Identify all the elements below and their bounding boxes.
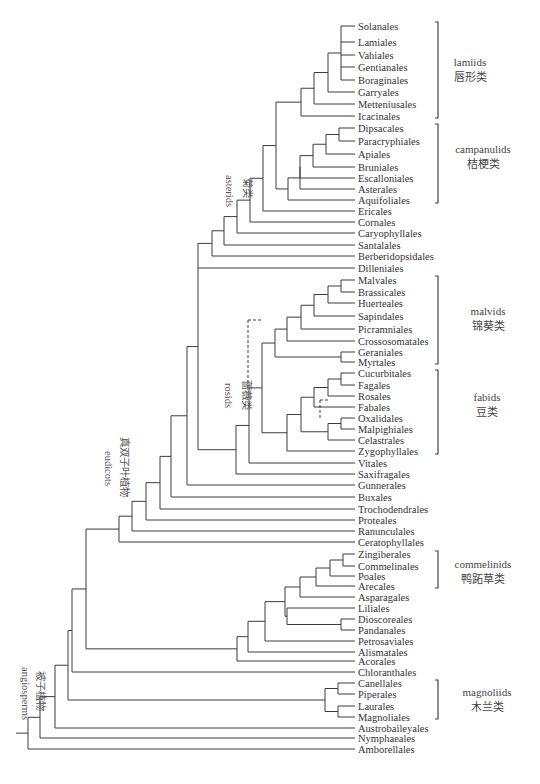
leaf-label: Piperales	[358, 689, 397, 700]
leaf-label: Gentianales	[358, 62, 408, 73]
leaf-label: Arecales	[358, 581, 395, 592]
svg-text:magnoliids: magnoliids	[463, 686, 512, 698]
leaf-label: Canellales	[358, 678, 402, 689]
svg-text:asterids: asterids	[224, 175, 235, 207]
tree-branches	[16, 26, 355, 749]
clade-bracket	[435, 276, 438, 364]
node-label-angiosperms: 被子植物 angiosperms	[20, 667, 47, 720]
clade-brackets	[435, 22, 438, 719]
clade-bracket	[435, 124, 438, 203]
leaf-label: Santalales	[358, 240, 401, 251]
leaf-label: Malvales	[358, 275, 397, 286]
leaf-label: Chloranthales	[358, 667, 416, 678]
svg-text:锦葵类: 锦葵类	[472, 319, 505, 333]
svg-text:lamiids: lamiids	[454, 56, 486, 68]
svg-text:木兰类: 木兰类	[471, 700, 504, 714]
svg-text:fabids: fabids	[474, 391, 501, 403]
leaf-labels: SolanalesLamialesVahialesGentianalesBora…	[358, 21, 434, 755]
clade-bracket	[435, 22, 438, 118]
svg-text:鸭跖草类: 鸭跖草类	[461, 572, 505, 586]
leaf-label: Rosales	[358, 391, 391, 402]
svg-text:campanulids: campanulids	[455, 143, 511, 155]
clade-label-campanulids: campanulids 桔梗类	[455, 143, 511, 171]
leaf-label: Cucurbitales	[358, 368, 411, 379]
leaf-label: Proteales	[358, 515, 397, 526]
leaf-label: Saxifragales	[358, 469, 410, 480]
leaf-label: Aquifoliales	[358, 195, 410, 206]
svg-text:eudicots: eudicots	[103, 451, 114, 486]
leaf-label: Laurales	[358, 701, 394, 712]
leaf-label: Oxalidales	[358, 413, 403, 424]
node-label-eudicots: 真双子叶植物 eudicots	[103, 437, 131, 497]
leaf-label: Myrtales	[358, 357, 395, 368]
leaf-label: Icacinales	[358, 111, 400, 122]
leaf-label: Fabales	[358, 402, 390, 413]
leaf-label: Vahiales	[358, 50, 394, 61]
figure-caption-clipped	[150, 772, 410, 784]
svg-text:rosids: rosids	[223, 383, 234, 408]
leaf-label: Metteniusales	[358, 99, 416, 110]
leaf-label: Acorales	[358, 656, 395, 667]
leaf-label: Caryophyllales	[358, 228, 422, 239]
leaf-label: Liliales	[358, 603, 390, 614]
leaf-label: Zygophyllales	[358, 446, 418, 457]
svg-text:蔷薇类: 蔷薇类	[241, 380, 253, 411]
svg-text:豆类: 豆类	[476, 405, 498, 419]
clade-bracket	[435, 680, 438, 719]
leaf-label: Ranunculales	[358, 526, 415, 537]
clade-bracket	[435, 370, 438, 454]
svg-text:angiosperms: angiosperms	[20, 667, 31, 720]
svg-text:malvids: malvids	[471, 305, 506, 317]
svg-text:桔梗类: 桔梗类	[467, 157, 500, 171]
clade-label-magnoliids: magnoliids 木兰类	[463, 686, 512, 714]
leaf-label: Sapindales	[358, 311, 404, 322]
svg-text:唇形类: 唇形类	[454, 70, 487, 84]
leaf-label: Buxales	[358, 492, 392, 503]
leaf-label: Dipsacales	[358, 123, 403, 134]
node-label-rosids: 蔷薇类 rosids	[223, 380, 253, 411]
clade-bracket	[435, 551, 438, 588]
svg-text:真双子叶植物: 真双子叶植物	[119, 437, 131, 497]
leaf-label: Gunnerales	[358, 480, 406, 491]
leaf-label: Paracryphiales	[358, 136, 420, 147]
clade-label-commelinids: commelinids 鸭跖草类	[455, 558, 512, 586]
leaf-label: Apiales	[358, 149, 390, 160]
clade-label-malvids: malvids 锦葵类	[471, 305, 506, 333]
leaf-label: Dioscoreales	[358, 614, 412, 625]
leaf-label: Amborellales	[358, 744, 415, 755]
leaf-label: Berberidopsidales	[358, 251, 434, 262]
leaf-label: Zingiberales	[358, 549, 410, 560]
svg-text:被子植物: 被子植物	[35, 671, 47, 711]
clade-label-fabids: fabids 豆类	[474, 391, 501, 419]
leaf-label: Boraginales	[358, 75, 408, 86]
leaf-label: Garryales	[358, 87, 399, 98]
leaf-label: Nymphaeales	[358, 733, 415, 744]
leaf-label: Dilleniales	[358, 263, 404, 274]
leaf-label: Vitales	[358, 458, 387, 469]
leaf-label: Bruniales	[358, 162, 398, 173]
leaf-label: Trochodendrales	[358, 504, 428, 515]
leaf-label: Lamiales	[358, 37, 396, 48]
leaf-label: Ceratophyllales	[358, 537, 424, 548]
leaf-label: Solanales	[358, 21, 398, 32]
leaf-label: Fagales	[358, 380, 390, 391]
clade-label-lamiids: lamiids 唇形类	[454, 56, 487, 84]
leaf-label: Asterales	[358, 184, 397, 195]
leaf-label: Celastrales	[358, 435, 404, 446]
leaf-label: Huerteales	[358, 298, 403, 309]
svg-text:菊类: 菊类	[242, 178, 254, 199]
leaf-label: Cornales	[358, 217, 395, 228]
leaf-label: Malpighiales	[358, 424, 413, 435]
leaf-label: Crossosomatales	[358, 336, 429, 347]
leaf-label: Ericales	[358, 206, 392, 217]
phylogenetic-tree: SolanalesLamialesVahialesGentianalesBora…	[0, 0, 540, 784]
leaf-label: Magnoliales	[358, 712, 410, 723]
leaf-label: Asparagales	[358, 592, 409, 603]
leaf-label: Escalloniales	[358, 173, 413, 184]
leaf-label: Brassicales	[358, 287, 405, 298]
svg-text:commelinids: commelinids	[455, 558, 512, 570]
leaf-label: Petrosaviales	[358, 636, 413, 647]
leaf-label: Picramniales	[358, 324, 412, 335]
leaf-label: Pandanales	[358, 625, 405, 636]
